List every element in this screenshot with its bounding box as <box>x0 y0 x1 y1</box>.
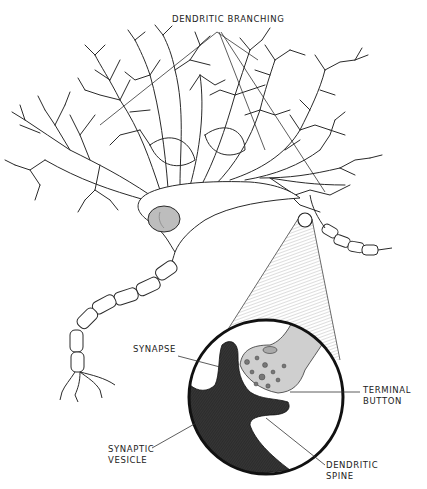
synapse-focus-circle <box>298 213 312 227</box>
label-dendritic-branching: DENDRITIC BRANCHING <box>172 14 284 25</box>
mitochondrion <box>263 347 277 354</box>
neuron-diagram <box>0 0 427 489</box>
label-dendritic-spine: DENDRITIC SPINE <box>326 460 378 482</box>
cell-body <box>138 182 300 252</box>
axon <box>60 252 179 402</box>
label-synaptic-vesicle: SYNAPTIC VESICLE <box>108 444 154 466</box>
label-terminal-button: TERMINAL BUTTON <box>363 385 411 407</box>
label-synapse: SYNAPSE <box>133 344 176 355</box>
nucleus <box>148 206 180 232</box>
right-myelinated-process <box>310 195 392 255</box>
